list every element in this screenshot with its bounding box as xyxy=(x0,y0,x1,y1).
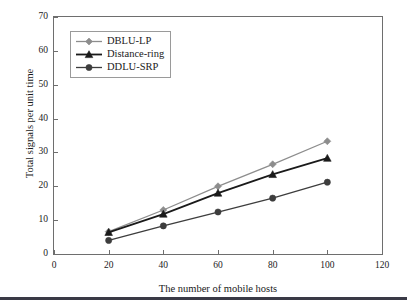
legend-swatch xyxy=(75,48,103,61)
y-tick-mark xyxy=(53,85,58,86)
legend-label: DBLU-LP xyxy=(107,36,151,47)
figure-chart: 010203040506070 020406080100120 Total si… xyxy=(0,0,407,306)
data-point-marker xyxy=(86,38,93,45)
legend-item-ddlu-srp[interactable]: DDLU-SRP xyxy=(75,61,164,74)
y-tick-label: 0 xyxy=(22,249,48,259)
data-point-marker xyxy=(86,64,92,70)
page-divider xyxy=(0,297,407,300)
legend-swatch xyxy=(75,35,103,48)
x-tick-mark xyxy=(273,250,274,255)
data-point-marker xyxy=(106,237,112,243)
x-tick-mark xyxy=(54,250,55,255)
series-distance-ring xyxy=(105,154,331,235)
x-tick-mark xyxy=(218,250,219,255)
legend-label: Distance-ring xyxy=(107,49,164,60)
data-point-marker xyxy=(269,161,276,168)
y-tick-mark xyxy=(53,17,58,18)
data-point-marker xyxy=(324,154,332,161)
data-point-marker xyxy=(324,138,331,145)
legend-swatch xyxy=(75,61,103,74)
data-point-marker xyxy=(324,179,330,185)
x-tick-mark xyxy=(109,250,110,255)
y-tick-label: 70 xyxy=(22,12,48,22)
legend-label: DDLU-SRP xyxy=(107,62,158,73)
x-tick-label: 60 xyxy=(203,261,233,271)
x-axis-title: The number of mobile hosts xyxy=(53,283,383,294)
data-point-marker xyxy=(215,209,221,215)
data-point-marker xyxy=(270,195,276,201)
x-tick-mark xyxy=(382,250,383,255)
y-tick-mark xyxy=(53,51,58,52)
legend-item-distance-ring[interactable]: Distance-ring xyxy=(75,48,164,61)
data-point-marker xyxy=(160,223,166,229)
legend-item-dblu-lp[interactable]: DBLU-LP xyxy=(75,35,164,48)
x-tick-mark xyxy=(163,250,164,255)
x-tick-label: 0 xyxy=(39,261,69,271)
series-dblu-lp xyxy=(105,138,331,235)
y-axis-title: Total signals per unit time xyxy=(24,29,35,219)
y-tick-mark xyxy=(53,152,58,153)
x-tick-label: 100 xyxy=(312,261,342,271)
chart-legend: DBLU-LPDistance-ringDDLU-SRP xyxy=(70,31,171,78)
y-tick-mark xyxy=(53,186,58,187)
x-tick-label: 120 xyxy=(367,261,397,271)
x-tick-label: 40 xyxy=(148,261,178,271)
x-tick-label: 20 xyxy=(94,261,124,271)
x-tick-label: 80 xyxy=(258,261,288,271)
y-tick-mark xyxy=(53,220,58,221)
y-tick-mark xyxy=(53,119,58,120)
x-tick-mark xyxy=(327,250,328,255)
